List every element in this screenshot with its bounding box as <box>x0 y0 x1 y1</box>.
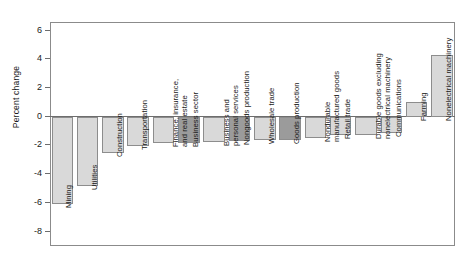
category-label: Transportation <box>141 42 150 150</box>
y-tick-label: -2 <box>34 139 42 149</box>
y-tick-label: 4 <box>37 53 42 63</box>
y-tick-label: 0 <box>37 111 42 121</box>
category-label: Durable goods excluding nonelectrical ma… <box>375 31 392 139</box>
category-label: Wholesale trade <box>268 36 277 144</box>
category-label: Retail trade <box>344 31 353 139</box>
y-tick-label: -4 <box>34 168 42 178</box>
y-tick-label: -8 <box>34 226 42 236</box>
category-label: Construction <box>116 49 125 157</box>
category-label: Farming <box>420 13 429 121</box>
bar-chart: Percent change 6420-2-4-6-8 MiningUtilit… <box>0 0 463 266</box>
y-axis-title: Percent change <box>11 47 21 147</box>
category-label: Communications <box>395 29 404 137</box>
category-label: Business sector <box>192 39 201 147</box>
category-label: Nongoods production <box>243 37 252 145</box>
category-label: Utilities <box>91 82 100 190</box>
category-label: Nondurable manufactured goods <box>324 34 341 142</box>
category-label: Finance, insurance, and real estate <box>172 39 189 147</box>
category-label: Goods production <box>293 36 302 144</box>
category-label: Mining <box>65 100 74 208</box>
y-tick-label: 2 <box>37 82 42 92</box>
y-tick-label: -6 <box>34 197 42 207</box>
category-label: Business and personal services <box>223 38 240 146</box>
y-tick-label: 6 <box>37 25 42 35</box>
category-label: Nonelectrical machinery <box>445 13 454 121</box>
